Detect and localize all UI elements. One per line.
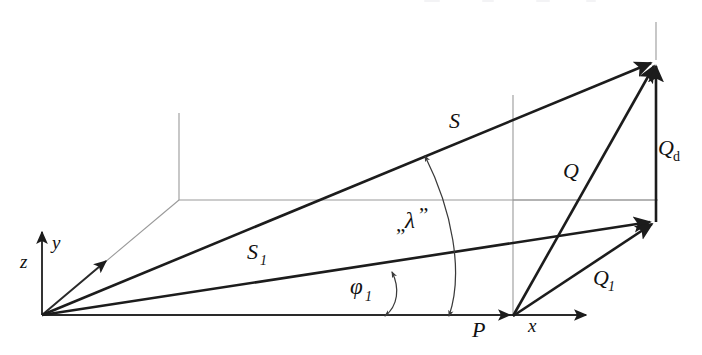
vector-s	[42, 63, 651, 315]
vector-label-s: S	[449, 108, 460, 133]
vector-label-s1-sub: 1	[260, 253, 267, 268]
vector-q1	[513, 224, 652, 316]
cropped-caption-remnants	[424, 0, 596, 2]
angle-arc-lambda	[425, 156, 456, 316]
angle-label-lambda-base: λ	[404, 208, 415, 233]
vector-label-s1: S 1	[247, 239, 267, 268]
diagram-labels: z y x P S S 1 Q Q 1 Q d φ 1	[19, 108, 680, 342]
angle-label-phi1-base: φ	[350, 274, 363, 299]
vector-label-q1-base: Q	[593, 265, 609, 290]
angle-label-lambda: „ λ ”	[396, 203, 428, 236]
vector-label-q1-sub: 1	[608, 279, 615, 294]
vector-label-s1-base: S	[247, 239, 258, 264]
angle-arcs	[385, 156, 456, 316]
vector-label-q1: Q 1	[593, 265, 615, 294]
axis-label-y: y	[50, 232, 61, 253]
vector-label-qd: Q d	[658, 135, 680, 164]
axis-label-z: z	[19, 251, 28, 272]
angle-label-lambda-open-quote: „	[396, 212, 405, 236]
figure-root: z y x P S S 1 Q Q 1 Q d φ 1	[0, 0, 702, 355]
vector-diagram-svg: z y x P S S 1 Q Q 1 Q d φ 1	[0, 0, 702, 355]
vector-q	[513, 66, 654, 316]
vector-label-qd-sub: d	[673, 149, 680, 164]
angle-label-phi1-sub: 1	[365, 289, 372, 304]
point-label-p: P	[471, 317, 485, 342]
angle-label-lambda-close-quote: ”	[419, 203, 428, 227]
vectors	[42, 63, 656, 316]
angle-label-phi1: φ 1	[350, 274, 372, 304]
axis-label-x: x	[527, 315, 537, 336]
vector-label-q: Q	[563, 158, 579, 183]
vector-label-qd-base: Q	[658, 135, 674, 160]
angle-arc-phi1	[385, 272, 397, 316]
